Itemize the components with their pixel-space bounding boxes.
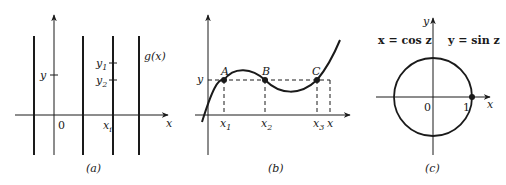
point-1-0 — [469, 94, 475, 100]
label-x1: x1 — [220, 117, 231, 132]
eq-x-cos-z: x = cos z — [378, 34, 432, 47]
label-y: y — [196, 73, 204, 86]
figure: y y1 y2 g(x) 0 xi x (a) y A B C x1 x2 x3… — [0, 0, 506, 185]
label-y: y — [39, 69, 47, 82]
label-A: A — [220, 65, 229, 78]
label-one: 1 — [463, 101, 470, 114]
panel-b: y A B C x1 x2 x3 x (b) — [195, 15, 350, 175]
label-x-axis: x — [327, 117, 334, 130]
label-origin: 0 — [58, 119, 65, 132]
caption-a: (a) — [86, 162, 101, 175]
label-C: C — [312, 65, 321, 78]
eq-y-sin-z: y = sin z — [447, 34, 500, 47]
caption-c: (c) — [425, 162, 440, 175]
label-y1: y1 — [95, 57, 107, 72]
panel-c: y x = cos z y = sin z 0 1 x (c) — [376, 15, 500, 175]
label-y2: y2 — [95, 74, 107, 89]
label-xi: xi — [103, 119, 112, 134]
label-g-of-x: g(x) — [144, 50, 166, 63]
label-x3: x3 — [313, 117, 324, 132]
label-x-axis: x — [166, 117, 173, 130]
caption-b: (b) — [268, 162, 284, 175]
label-origin: 0 — [424, 101, 431, 114]
panel-a: y y1 y2 g(x) 0 xi x (a) — [15, 15, 173, 175]
label-x2: x2 — [261, 117, 272, 132]
label-y-axis: y — [422, 15, 430, 28]
label-x-axis: x — [487, 98, 494, 111]
label-B: B — [261, 65, 270, 78]
